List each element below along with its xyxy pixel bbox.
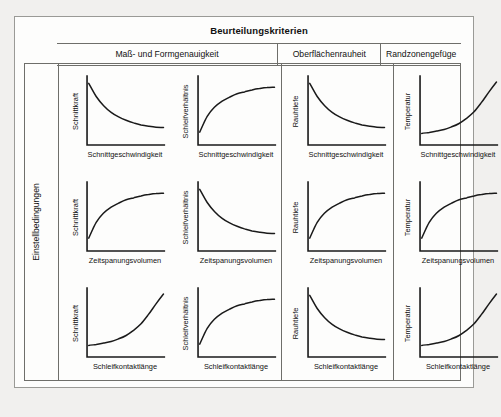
chart-x-axis-label: Zeitspanungsvolumen (193, 256, 279, 265)
chart-y-axis-label: Schleifverhältnis (179, 286, 193, 360)
chart-plot-area (303, 74, 387, 148)
chart-grid: SchnittkraftSchnittgeschwindigkeitSchlei… (24, 63, 461, 381)
chart-cell: RauhtiefeZeitspanungsvolumen (289, 180, 389, 272)
chart-y-axis-label-text: Temperatur (404, 92, 413, 129)
chart-y-axis-label: Schnittkraft (68, 180, 82, 254)
chart-plot-area (415, 74, 499, 148)
header-title: Beurteilungskriterien (57, 25, 461, 36)
chart-y-axis-label-text: Schleifverhältnis (182, 296, 191, 350)
chart-cell: SchleifverhältnisZeitspanungsvolumen (179, 180, 279, 272)
chart-x-axis-label: Schleifkontaktlänge (303, 362, 389, 371)
header-column-1: Maß- und Formgenauigkeit (57, 43, 277, 65)
chart-y-axis-label: Schleifverhältnis (179, 74, 193, 148)
chart-x-axis-label: Schnittgeschwindigkeit (415, 150, 501, 159)
chart-y-axis-label: Rauhtiefe (289, 286, 303, 360)
chart-y-axis-label: Schnittkraft (68, 286, 82, 360)
chart-y-axis-label: Temperatur (401, 180, 415, 254)
chart-x-axis-label: Schnittgeschwindigkeit (193, 150, 279, 159)
chart-cell: TemperaturSchnittgeschwindigkeit (401, 74, 501, 166)
grid-divider-2 (281, 64, 282, 380)
chart-y-axis-label: Schnittkraft (68, 74, 82, 148)
chart-plot-area (82, 286, 166, 360)
header-column-2: Oberflächenrauheit (277, 43, 381, 65)
chart-x-axis-label: Zeitspanungsvolumen (82, 256, 168, 265)
diagram-panel: Beurteilungskriterien Maß- und Formgenau… (14, 16, 474, 388)
header-column-label: Randzonengefüge (386, 49, 456, 59)
header-column-label: Maß- und Formgenauigkeit (115, 49, 218, 59)
chart-cell: TemperaturSchleifkontaktlänge (401, 286, 501, 378)
grid-divider-1 (58, 64, 59, 380)
chart-y-axis-label: Rauhtiefe (289, 180, 303, 254)
chart-y-axis-label-text: Schleifverhältnis (182, 84, 191, 138)
chart-cell: SchleifverhältnisSchnittgeschwindigkeit (179, 74, 279, 166)
chart-cell: TemperaturZeitspanungsvolumen (401, 180, 501, 272)
chart-y-axis-label: Schleifverhältnis (179, 180, 193, 254)
chart-x-axis-label: Schleifkontaktlänge (193, 362, 279, 371)
chart-cell: SchleifverhältnisSchleifkontaktlänge (179, 286, 279, 378)
chart-y-axis-label-text: Rauhtiefe (292, 201, 301, 233)
chart-plot-area (193, 74, 277, 148)
chart-y-axis-label-text: Temperatur (404, 198, 413, 235)
chart-y-axis-label-text: Schnittkraft (71, 305, 80, 342)
chart-x-axis-label: Zeitspanungsvolumen (303, 256, 389, 265)
chart-x-axis-label: Schnittgeschwindigkeit (303, 150, 389, 159)
chart-y-axis-label: Temperatur (401, 286, 415, 360)
chart-x-axis-label: Schleifkontaktlänge (415, 362, 501, 371)
chart-x-axis-label: Schleifkontaktlänge (82, 362, 168, 371)
chart-y-axis-label: Rauhtiefe (289, 74, 303, 148)
chart-y-axis-label: Temperatur (401, 74, 415, 148)
chart-y-axis-label-text: Schleifverhältnis (182, 190, 191, 244)
chart-y-axis-label-text: Schnittkraft (71, 93, 80, 130)
chart-plot-area (193, 286, 277, 360)
chart-y-axis-label-text: Rauhtiefe (292, 307, 301, 339)
header-column-3: Randzonengefüge (380, 43, 461, 65)
chart-x-axis-label: Schnittgeschwindigkeit (82, 150, 168, 159)
grid-divider-3 (393, 64, 394, 380)
header-column-label: Oberflächenrauheit (293, 49, 366, 59)
chart-plot-area (82, 180, 166, 254)
chart-y-axis-label-text: Temperatur (404, 304, 413, 341)
chart-x-axis-label: Zeitspanungsvolumen (415, 256, 501, 265)
chart-plot-area (303, 180, 387, 254)
header-columns: Maß- und FormgenauigkeitOberflächenrauhe… (57, 43, 461, 65)
chart-plot-area (415, 180, 499, 254)
chart-y-axis-label-text: Schnittkraft (71, 199, 80, 236)
chart-plot-area (82, 74, 166, 148)
chart-plot-area (415, 286, 499, 360)
chart-plot-area (193, 180, 277, 254)
chart-cell: SchnittkraftZeitspanungsvolumen (68, 180, 168, 272)
chart-cell: RauhtiefeSchnittgeschwindigkeit (289, 74, 389, 166)
chart-cell: SchnittkraftSchnittgeschwindigkeit (68, 74, 168, 166)
chart-plot-area (303, 286, 387, 360)
chart-y-axis-label-text: Rauhtiefe (292, 95, 301, 127)
chart-cell: SchnittkraftSchleifkontaktlänge (68, 286, 168, 378)
chart-cell: RauhtiefeSchleifkontaktlänge (289, 286, 389, 378)
